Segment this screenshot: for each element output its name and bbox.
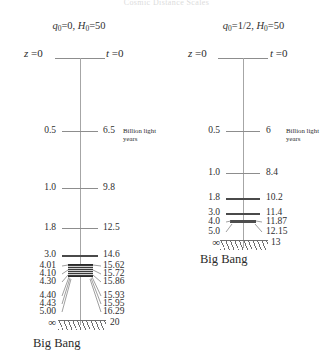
tick-mark — [226, 173, 260, 174]
big-bang-label: Big Bang — [33, 336, 81, 351]
redshift-label: 4.30 — [20, 277, 56, 287]
timeline-axis — [80, 58, 81, 325]
h-value: 50 — [95, 20, 106, 31]
redshift-zero-label: z =0 — [188, 47, 207, 59]
z-symbol: z — [188, 47, 192, 59]
units-caption-line1: Billion light — [123, 127, 156, 135]
redshift-label: 1.8 — [26, 223, 56, 233]
redshift-label-infinity: ∞ — [26, 317, 56, 328]
t-zero-value: 0 — [282, 47, 288, 59]
t-zero-value: 0 — [118, 47, 124, 59]
tick-mark — [62, 188, 98, 189]
panel-flat-universe: q0=1/2, H0=50 z =0 t =0 0.5 1.0 1.8 3.0 … — [170, 0, 333, 358]
h-subscript: 0 — [264, 24, 268, 33]
tick-mark — [62, 255, 98, 257]
time-zero-label: t =0 — [106, 47, 124, 59]
lookback-time-label: 16.29 — [103, 307, 124, 317]
lookback-time-label-max: 20 — [110, 318, 120, 328]
q-subscript: 0 — [58, 24, 62, 33]
lookback-time-label-max: 13 — [271, 238, 281, 248]
time-zero-label: t =0 — [270, 47, 288, 59]
cosmic-distance-figure: Cosmic Distance Scales q0=0, H0=50 z =0 … — [0, 0, 333, 358]
t-symbol: t — [106, 47, 109, 59]
lookback-time-label: 14.6 — [103, 250, 120, 260]
units-caption-line2: years — [286, 135, 319, 143]
lookback-time-label: 12.15 — [266, 227, 287, 237]
z-symbol: z — [24, 47, 28, 59]
lookback-time-label: 6.5 — [103, 126, 115, 136]
big-bang-barrier — [220, 240, 268, 250]
q-subscript: 0 — [228, 24, 232, 33]
redshift-label: 1.0 — [190, 168, 220, 178]
compressed-epoch-band — [230, 220, 256, 223]
h-subscript: 0 — [85, 24, 89, 33]
redshift-zero-label: z =0 — [24, 47, 43, 59]
tick-mark — [62, 131, 98, 132]
h-symbol: H — [256, 20, 264, 31]
compressed-epoch-band — [68, 264, 93, 277]
redshift-label: 0.5 — [190, 126, 220, 136]
panel-open-universe: q0=0, H0=50 z =0 t =0 — [0, 0, 170, 358]
h-value: 50 — [274, 20, 285, 31]
tick-mark — [226, 213, 260, 215]
units-caption: Billion light years — [123, 127, 156, 144]
lookback-time-label: 12.5 — [103, 223, 120, 233]
panel-header-open-universe: q0=0, H0=50 — [0, 20, 164, 33]
redshift-label: 3.0 — [26, 250, 56, 260]
t-symbol: t — [270, 47, 273, 59]
z-zero-value: 0 — [201, 47, 207, 59]
z-zero-value: 0 — [37, 47, 43, 59]
big-bang-barrier — [58, 320, 106, 330]
units-caption: Billion light years — [286, 127, 319, 144]
units-caption-line2: years — [123, 135, 156, 143]
tick-mark — [226, 198, 260, 200]
lookback-time-label: 9.8 — [103, 183, 115, 193]
lookback-time-label: 8.4 — [266, 168, 278, 178]
q-value: 1/2 — [238, 20, 251, 31]
units-caption-line1: Billion light — [286, 127, 319, 135]
redshift-label: 1.8 — [190, 193, 220, 203]
tick-mark — [62, 228, 98, 229]
tick-mark — [226, 131, 260, 132]
redshift-label: 0.5 — [26, 126, 56, 136]
lookback-time-label: 15.86 — [103, 277, 124, 287]
big-bang-label: Big Bang — [200, 252, 248, 267]
redshift-label: 1.0 — [26, 183, 56, 193]
panel-header-flat-universe: q0=1/2, H0=50 — [172, 20, 333, 33]
lookback-time-label: 6 — [266, 126, 271, 136]
lookback-time-label: 10.2 — [266, 193, 283, 203]
redshift-label-infinity: ∞ — [190, 237, 220, 248]
